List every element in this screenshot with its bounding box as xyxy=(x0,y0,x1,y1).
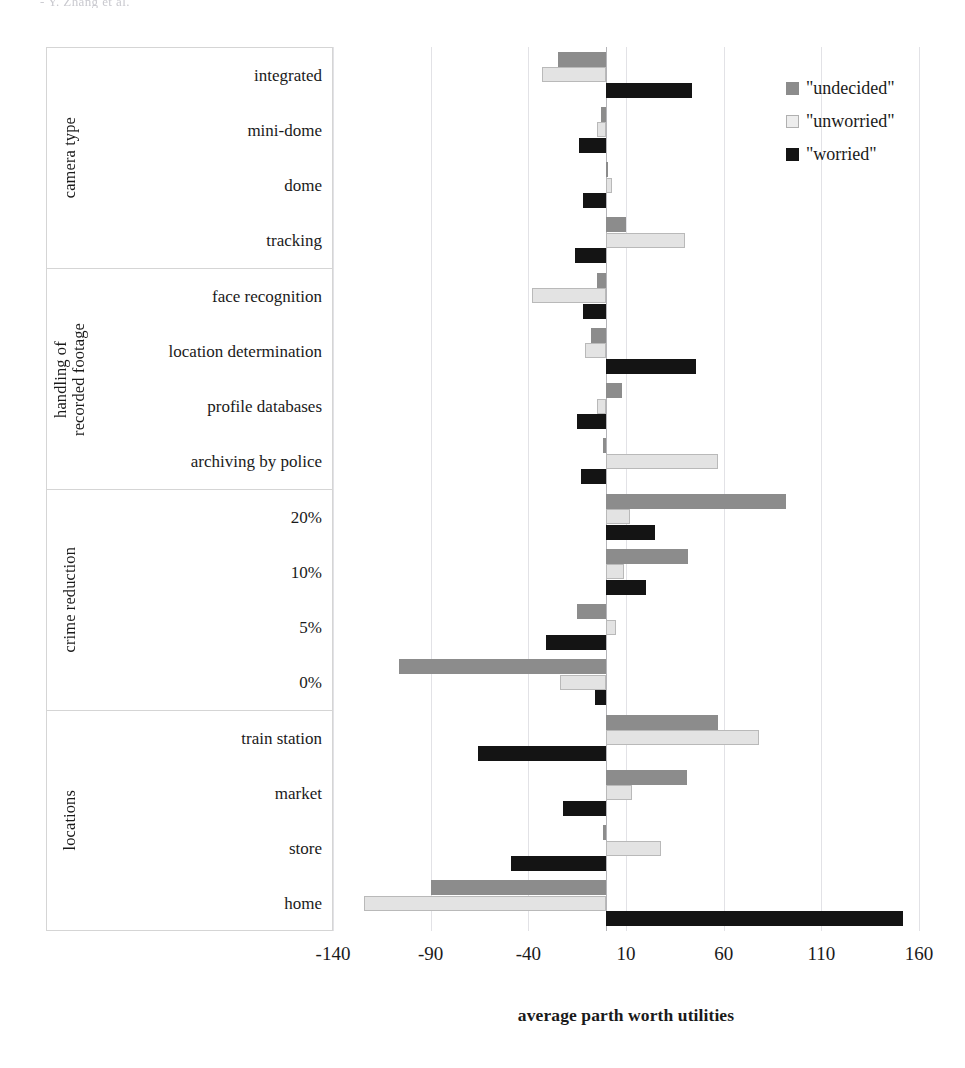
category-label: 0% xyxy=(299,674,322,691)
category-label: store xyxy=(289,840,322,857)
bar-worried-profile-databases xyxy=(577,414,606,429)
category-group-locations: locationstrain stationmarketstorehome xyxy=(46,710,333,931)
bar-worried-market xyxy=(563,801,606,816)
legend-label: "worried" xyxy=(806,144,877,165)
bar-undecided-location-determination xyxy=(591,328,607,343)
category-label-column: camera typeintegratedmini-domedometracki… xyxy=(46,47,333,931)
bar-worried-face-recognition xyxy=(583,304,606,319)
bar-undecided-market xyxy=(606,770,686,785)
group-title-text: handling of recorded footage xyxy=(52,323,89,436)
category-label: face recognition xyxy=(212,288,322,305)
category-label: train station xyxy=(241,730,322,747)
plot-area xyxy=(333,47,919,931)
bar-worried-10- xyxy=(606,580,645,595)
bar-unworried-0- xyxy=(560,675,607,690)
bar-undecided-home xyxy=(431,880,607,895)
legend-swatch-undecided-icon xyxy=(786,82,799,95)
bar-worried-tracking xyxy=(575,248,606,263)
bar-undecided-0- xyxy=(399,659,606,674)
group-title: crime reduction xyxy=(53,490,87,710)
bar-undecided-face-recognition xyxy=(597,273,607,288)
category-label: dome xyxy=(284,177,322,194)
legend-item-worried[interactable]: "worried" xyxy=(786,138,961,171)
gridline-110 xyxy=(821,47,822,931)
legend-swatch-worried-icon xyxy=(786,148,799,161)
bar-worried-dome xyxy=(583,193,606,208)
bar-unworried-market xyxy=(606,785,631,800)
bar-worried-store xyxy=(511,856,607,871)
category-label: profile databases xyxy=(207,398,322,415)
legend-label: "unworried" xyxy=(806,111,895,132)
bar-unworried-dome xyxy=(606,178,612,193)
bar-worried-mini-dome xyxy=(579,138,606,153)
bar-worried-home xyxy=(606,911,903,926)
bar-undecided-20- xyxy=(606,494,786,509)
bar-worried-0- xyxy=(595,690,607,705)
legend-label: "undecided" xyxy=(806,78,895,99)
gridline-160 xyxy=(919,47,920,931)
bar-worried-20- xyxy=(606,525,655,540)
category-group-camera-type: camera typeintegratedmini-domedometracki… xyxy=(46,47,333,268)
group-title: handling of recorded footage xyxy=(53,269,87,489)
legend-item-undecided[interactable]: "undecided" xyxy=(786,72,961,105)
category-label: tracking xyxy=(266,232,322,249)
bar-undecided-profile-databases xyxy=(606,383,622,398)
bar-undecided-mini-dome xyxy=(601,107,607,122)
bar-undecided-integrated xyxy=(558,52,607,67)
x-axis-tick: -140 xyxy=(316,943,351,965)
bar-unworried-face-recognition xyxy=(532,288,606,303)
category-label: mini-dome xyxy=(247,122,322,139)
bar-worried-5- xyxy=(546,635,607,650)
bar-unworried-integrated xyxy=(542,67,606,82)
bar-unworried-profile-databases xyxy=(597,399,607,414)
category-label: 5% xyxy=(299,619,322,636)
group-title-text: crime reduction xyxy=(61,547,79,653)
category-label: 20% xyxy=(291,509,322,526)
bar-undecided-store xyxy=(603,825,607,840)
legend-swatch-unworried-icon xyxy=(786,115,799,128)
x-axis-tick: -90 xyxy=(418,943,443,965)
category-label: location determination xyxy=(169,343,322,360)
bar-undecided-10- xyxy=(606,549,688,564)
bar-worried-integrated xyxy=(606,83,692,98)
legend-item-unworried[interactable]: "unworried" xyxy=(786,105,961,138)
group-title: locations xyxy=(53,711,87,930)
gridline--140 xyxy=(333,47,334,931)
category-group-handling-of-recorded-footage: handling of recorded footageface recogni… xyxy=(46,268,333,489)
bar-worried-train-station xyxy=(478,746,607,761)
bar-undecided-dome xyxy=(606,162,608,177)
bar-unworried-location-determination xyxy=(585,343,606,358)
x-axis-tick: 10 xyxy=(617,943,636,965)
group-title: camera type xyxy=(53,48,87,268)
horizontal-bar-chart: camera typeintegratedmini-domedometracki… xyxy=(0,0,965,1068)
gridline-60 xyxy=(724,47,725,931)
bar-undecided-tracking xyxy=(606,217,626,232)
bar-unworried-mini-dome xyxy=(597,122,607,137)
bar-unworried-tracking xyxy=(606,233,684,248)
category-label: market xyxy=(275,785,322,802)
bar-unworried-train-station xyxy=(606,730,758,745)
bar-unworried-5- xyxy=(606,620,616,635)
category-group-crime-reduction: crime reduction20%10%5%0% xyxy=(46,489,333,710)
bar-unworried-store xyxy=(606,841,661,856)
group-title-text: locations xyxy=(61,790,79,850)
bar-unworried-archiving-by-police xyxy=(606,454,717,469)
bar-worried-archiving-by-police xyxy=(581,469,606,484)
bar-unworried-home xyxy=(364,896,606,911)
bar-undecided-archiving-by-police xyxy=(603,438,607,453)
category-label: integrated xyxy=(254,67,322,84)
gridline--90 xyxy=(431,47,432,931)
category-label: home xyxy=(284,895,322,912)
x-axis-tick: -40 xyxy=(516,943,541,965)
bar-undecided-train-station xyxy=(606,715,717,730)
x-axis-tick: 110 xyxy=(807,943,835,965)
gridline--40 xyxy=(528,47,529,931)
bar-unworried-10- xyxy=(606,564,624,579)
group-title-text: camera type xyxy=(61,117,79,198)
x-axis-tick: 160 xyxy=(905,943,934,965)
chart-legend: "undecided""unworried""worried" xyxy=(786,72,961,171)
bar-undecided-5- xyxy=(577,604,606,619)
bar-unworried-20- xyxy=(606,509,629,524)
x-axis-title: average parth worth utilities xyxy=(333,1005,919,1026)
category-label: archiving by police xyxy=(191,453,322,470)
